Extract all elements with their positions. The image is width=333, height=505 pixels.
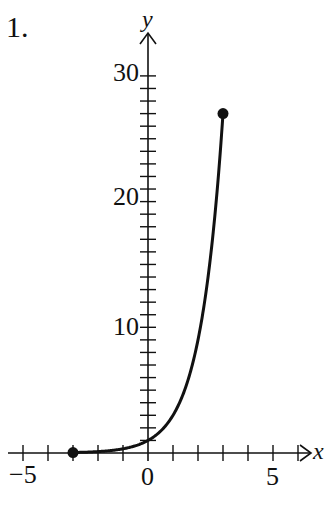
y-tick-label-30: 30 <box>113 58 139 88</box>
x-axis-label: x <box>313 438 324 465</box>
x-tick-label-neg5: −5 <box>9 460 37 490</box>
axes <box>8 33 311 461</box>
x-tick-label-5: 5 <box>266 462 279 492</box>
y-tick-label-20: 20 <box>113 182 139 212</box>
x-tick-label-0: 0 <box>141 462 154 492</box>
y-tick-label-10: 10 <box>113 312 139 342</box>
graph-canvas <box>0 0 333 505</box>
y-axis-label: y <box>142 6 153 33</box>
